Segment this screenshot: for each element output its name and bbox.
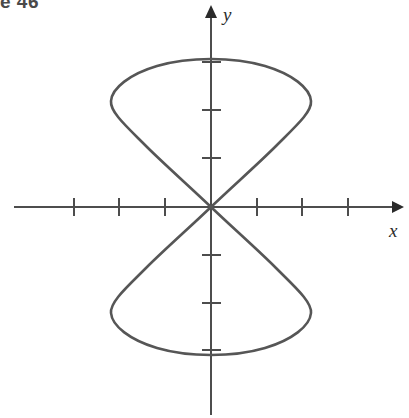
y-axis-arrowhead xyxy=(205,5,217,18)
x-axis-label: x xyxy=(388,220,398,241)
coordinate-plot: x y xyxy=(0,0,409,418)
x-axis-arrowhead xyxy=(392,201,404,213)
y-axis-label: y xyxy=(221,4,232,25)
figure-container: e 46 x y xyxy=(0,0,409,418)
